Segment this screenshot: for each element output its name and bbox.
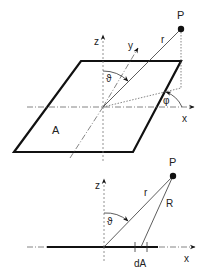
y-axis-lower [70, 107, 103, 158]
label-da: dA [134, 258, 147, 269]
top-diagram: P r z y ϑ φ x A [14, 9, 194, 163]
label-R: R [166, 198, 173, 209]
label-x: x [182, 113, 187, 124]
point-p-bottom [170, 173, 176, 179]
label-phi: φ [163, 95, 170, 106]
point-p [178, 26, 184, 32]
plane-a [14, 61, 181, 152]
label-r: r [161, 34, 165, 45]
label-x-bottom: x [184, 253, 189, 264]
label-y: y [128, 40, 133, 51]
radius-line-bottom [104, 176, 173, 247]
label-z: z [94, 36, 99, 47]
label-p: P [177, 9, 184, 21]
label-r-bottom: r [144, 187, 148, 198]
bottom-diagram: P z r R ϑ dA x [27, 156, 195, 269]
label-p-bottom: P [169, 156, 176, 168]
label-theta: ϑ [106, 73, 112, 84]
label-z-bottom: z [95, 180, 100, 191]
radiation-geometry-diagram: P r z y ϑ φ x A P z r R ϑ dA x [0, 0, 210, 279]
label-theta-bottom: ϑ [107, 216, 113, 227]
label-a: A [52, 124, 60, 136]
